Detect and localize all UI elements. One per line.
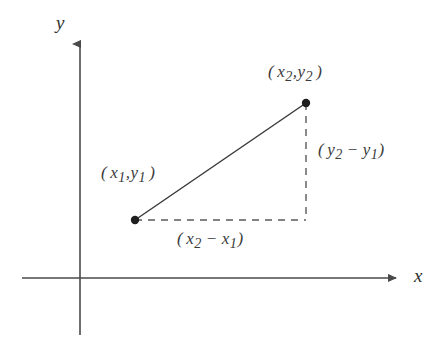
- paren-open: (: [101, 163, 107, 182]
- point-2-x-sub: 2: [285, 68, 293, 84]
- point-2-y-var: y: [298, 62, 306, 81]
- paren-open: (: [318, 140, 324, 159]
- point-marker-2: [302, 99, 310, 107]
- point-1-x-var: x: [110, 163, 118, 182]
- delta-x-second-var: x: [222, 229, 230, 248]
- point-2-coordinate-label: (x2,y2): [268, 63, 322, 84]
- delta-x-label: (x2−x1): [177, 230, 244, 251]
- point-1-coordinate-label: (x1,y1): [101, 164, 155, 185]
- y-axis-label: y: [56, 13, 64, 32]
- paren-open: (: [177, 229, 183, 248]
- delta-y-first-var: y: [327, 140, 335, 159]
- paren-close: ): [378, 140, 384, 159]
- point-2-x-var: x: [277, 62, 285, 81]
- delta-y-label: (y2−y1): [318, 141, 385, 162]
- delta-y-second-var: y: [363, 140, 371, 159]
- x-axis-label: x: [414, 266, 422, 285]
- diagram-canvas: [0, 0, 443, 352]
- delta-x-first-var: x: [186, 229, 194, 248]
- minus-operator: −: [206, 229, 218, 248]
- paren-close: ): [316, 62, 322, 81]
- paren-close: ): [237, 229, 243, 248]
- point-2-y-sub: 2: [306, 68, 314, 84]
- paren-open: (: [268, 62, 274, 81]
- paren-close: ): [149, 163, 155, 182]
- point-1-x-sub: 1: [118, 169, 126, 185]
- delta-y-first-sub: 2: [335, 146, 343, 162]
- point-1-y-var: y: [131, 163, 139, 182]
- distance-formula-diagram: y x (x2,y2) (x1,y1) (y2−y1) (x2−x1): [0, 0, 443, 352]
- point-marker-1: [131, 216, 139, 224]
- hypotenuse-segment: [135, 103, 306, 220]
- minus-operator: −: [347, 140, 359, 159]
- point-1-y-sub: 1: [139, 169, 147, 185]
- delta-x-first-sub: 2: [194, 235, 202, 251]
